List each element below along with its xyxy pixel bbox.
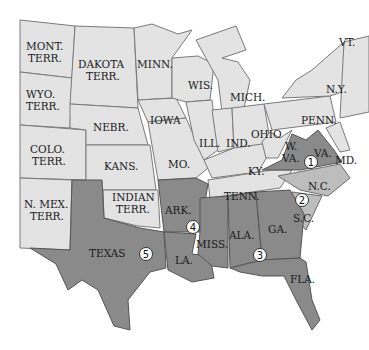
label-tenn: TENN. [224,190,260,202]
label-ark: ARK. [164,204,192,216]
label-fla: FLA. [290,273,315,285]
secession-map: MONT. TERR. DAKOTA TERR. MINN. WIS. MICH… [0,0,369,350]
label-minn: MINN. [137,58,173,70]
label-md: MD. [335,154,357,166]
label-nmex-terr: TERR. [30,210,64,222]
label-colo: COLO. [30,143,65,155]
label-mont: MONT. [26,40,63,52]
label-wyo-terr: TERR. [26,100,60,112]
region-new-england [340,36,369,118]
label-ill: ILL. [199,137,220,149]
label-penn: PENN. [301,114,337,126]
label-kans: KANS. [104,160,138,172]
svg-text:1: 1 [308,157,314,168]
label-sc: S.C. [293,212,314,224]
svg-text:3: 3 [257,250,263,261]
label-nebr: NEBR. [93,121,129,133]
label-indian: INDIAN [112,191,155,203]
label-colo-terr: TERR. [32,155,66,167]
svg-text:4: 4 [190,222,196,233]
label-ky: KY. [248,165,264,177]
label-iowa: IOWA [150,114,181,126]
marker-2: 2 [296,194,309,207]
svg-text:5: 5 [143,249,149,260]
marker-4: 4 [187,221,200,234]
label-mo: MO. [168,158,190,170]
svg-text:2: 2 [299,195,305,206]
label-wis: WIS. [188,79,213,91]
region-fla [230,258,320,330]
label-wva-1: W. [285,140,297,152]
marker-1: 1 [305,156,318,169]
label-la: LA. [175,254,193,266]
label-miss: MISS. [196,238,228,250]
label-dakota: DAKOTA [78,58,125,70]
region-miss [198,196,228,268]
label-ala: ALA. [228,229,254,241]
label-indian-terr: TERR. [116,203,150,215]
label-wva-2: VA. [281,152,300,164]
marker-5: 5 [140,248,153,261]
label-nc: N.C. [308,180,331,192]
label-ohio: OHIO [251,128,282,140]
label-texas: TEXAS [89,247,126,259]
label-wyo: WYO. [26,88,55,100]
marker-3: 3 [254,249,267,262]
label-ny: N.Y. [326,83,347,95]
label-mich: MICH. [230,91,265,103]
label-vt: VT. [338,36,355,48]
label-dakota-terr: TERR. [86,70,120,82]
label-nmex: N. MEX. [24,198,68,210]
label-ind: IND. [226,137,251,149]
label-ga: GA. [268,223,287,235]
label-mont-terr: TERR. [28,52,62,64]
